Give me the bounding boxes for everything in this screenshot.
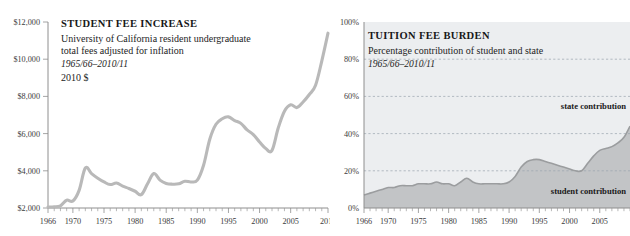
right-x-tick-label: 2000 xyxy=(561,217,577,226)
left-y-tick-label: $12,000 xyxy=(13,18,40,27)
right-x-tick-label: 1985 xyxy=(471,217,487,226)
left-x-tick-label: 1990 xyxy=(189,217,205,226)
fee-line-series xyxy=(48,33,328,207)
chart-panel-student-fee-increase: $2,000$4,000$6,000$8,000$10,000$12,000 1… xyxy=(0,0,330,236)
left-x-tick-label: 1970 xyxy=(65,217,81,226)
right-y-tick-label: 60% xyxy=(344,92,359,101)
right-x-tick-label: 1990 xyxy=(501,217,517,226)
student-fee-increase-chart: $2,000$4,000$6,000$8,000$10,000$12,000 1… xyxy=(0,0,330,236)
right-y-tick-label: 40% xyxy=(344,130,359,139)
right-y-tick-label: 80% xyxy=(344,55,359,64)
left-y-tick-label: $4,000 xyxy=(17,167,40,176)
left-x-tick-label: 1966 xyxy=(40,217,56,226)
left-y-tick-label: $2,000 xyxy=(17,204,40,213)
right-x-tick-label: 2005 xyxy=(592,217,608,226)
left-x-tick-label: 1975 xyxy=(96,217,112,226)
chart-panel-tuition-fee-burden: 0%20%40%60%80%100% 196619701975198019851… xyxy=(330,0,630,236)
right-chart-y-axis-labels: 0%20%40%60%80%100% xyxy=(340,18,359,213)
left-chart-y-axis-labels: $2,000$4,000$6,000$8,000$10,000$12,000 xyxy=(13,18,48,213)
left-y-tick-label: $8,000 xyxy=(17,92,40,101)
figure-root: $2,000$4,000$6,000$8,000$10,000$12,000 1… xyxy=(0,0,630,236)
left-x-tick-label: 2000 xyxy=(251,217,267,226)
left-chart-x-axis-labels: 1966197019751980198519901995200020052011 xyxy=(40,208,330,226)
tuition-fee-burden-chart: 0%20%40%60%80%100% 196619701975198019851… xyxy=(330,0,630,236)
right-x-tick-label: 1975 xyxy=(410,217,426,226)
left-x-tick-label: 1980 xyxy=(127,217,143,226)
left-x-tick-label: 2005 xyxy=(282,217,298,226)
left-y-tick-label: $10,000 xyxy=(13,55,40,64)
right-chart-x-axis-labels: 196619701975198019851990199520002005 xyxy=(356,208,630,226)
left-y-tick-label: $6,000 xyxy=(17,130,40,139)
right-y-tick-label: 100% xyxy=(340,18,359,27)
left-x-tick-label: 1995 xyxy=(220,217,236,226)
left-x-tick-label: 2011 xyxy=(320,217,330,226)
right-y-tick-label: 20% xyxy=(344,167,359,176)
left-x-tick-label: 1985 xyxy=(158,217,174,226)
right-y-tick-label: 0% xyxy=(348,204,359,213)
right-x-tick-label: 1970 xyxy=(380,217,396,226)
right-x-tick-label: 1966 xyxy=(356,217,372,226)
right-x-tick-label: 1980 xyxy=(440,217,456,226)
right-x-tick-label: 1995 xyxy=(531,217,547,226)
